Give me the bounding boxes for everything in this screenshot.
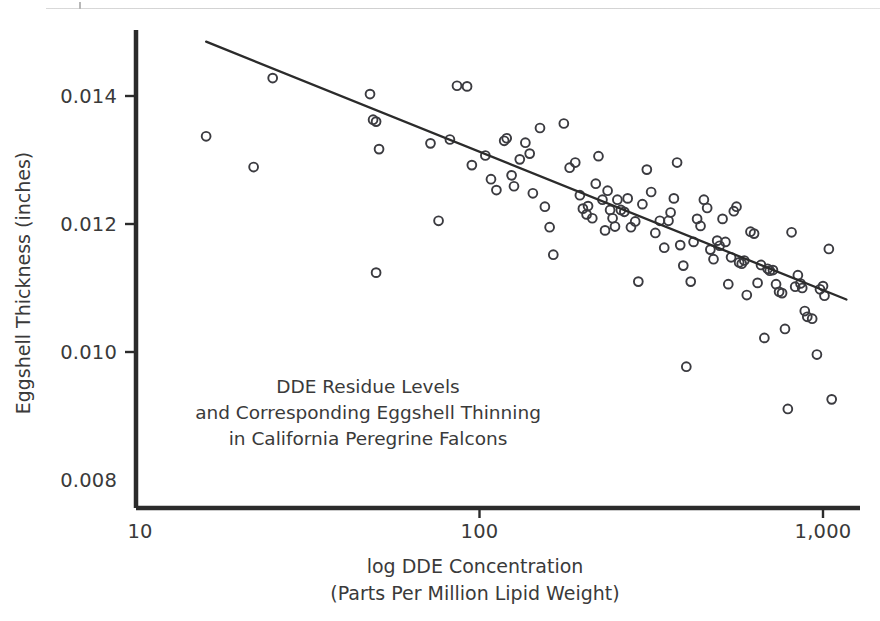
data-point	[686, 277, 695, 286]
scatter-plot: 0.0080.0100.0120.014 101001,000 Eggshell…	[0, 0, 880, 621]
data-point	[549, 250, 558, 259]
data-point	[540, 202, 549, 211]
data-point	[669, 194, 678, 203]
data-point	[703, 204, 712, 213]
data-point	[591, 179, 600, 188]
regression-trendline	[206, 42, 846, 300]
data-point	[673, 158, 682, 167]
data-point	[453, 81, 462, 90]
data-point	[268, 74, 277, 83]
data-point	[434, 216, 443, 225]
data-point	[613, 195, 622, 204]
data-point	[426, 139, 435, 148]
data-point	[682, 362, 691, 371]
x-axis-title-line-2: (Parts Per Million Lipid Weight)	[330, 582, 619, 604]
data-point	[375, 145, 384, 154]
data-point	[603, 186, 612, 195]
x-tick-label: 1,000	[795, 520, 852, 543]
data-point	[528, 189, 537, 198]
data-point	[249, 163, 258, 172]
x-axis-title-line-1: log DDE Concentration	[367, 555, 584, 577]
data-point	[545, 223, 554, 232]
data-point	[824, 245, 833, 254]
data-point	[463, 82, 472, 91]
data-point	[611, 222, 620, 231]
data-point	[559, 119, 568, 128]
y-tick-label: 0.012	[60, 213, 117, 236]
y-axis-title: Eggshell Thickness (inches)	[12, 152, 34, 415]
data-point	[623, 194, 632, 203]
y-tick-label: 0.014	[60, 85, 117, 108]
data-point	[666, 208, 675, 217]
data-point	[781, 325, 790, 334]
data-point	[492, 186, 501, 195]
annotation-line-2: and Corresponding Eggshell Thinning	[195, 402, 541, 423]
data-point	[571, 158, 580, 167]
data-point	[787, 228, 796, 237]
data-point	[521, 138, 530, 147]
y-axis-tick-labels: 0.0080.0100.0120.014	[60, 85, 117, 492]
data-point	[724, 280, 733, 289]
x-tick-label: 10	[127, 520, 152, 543]
data-point	[753, 278, 762, 287]
data-point	[718, 214, 727, 223]
data-point	[525, 149, 534, 158]
data-point	[601, 226, 610, 235]
annotation-line-3: in California Peregrine Falcons	[229, 428, 508, 449]
data-point	[372, 268, 381, 277]
data-point	[660, 243, 669, 252]
data-point	[467, 161, 476, 170]
data-point	[536, 124, 545, 133]
data-point-layer	[202, 74, 836, 414]
data-point	[651, 229, 660, 238]
y-tick-label: 0.010	[60, 341, 117, 364]
data-point	[202, 132, 211, 141]
data-point	[487, 175, 496, 184]
data-point	[515, 155, 524, 164]
data-point	[507, 171, 516, 180]
data-point	[760, 334, 769, 343]
data-point	[783, 405, 792, 414]
data-point	[634, 277, 643, 286]
y-tick-label: 0.008	[60, 469, 117, 492]
data-point	[647, 188, 656, 197]
data-point	[642, 165, 651, 174]
annotation-line-1: DDE Residue Levels	[276, 376, 459, 397]
data-point	[676, 241, 685, 250]
figure-container: 0.0080.0100.0120.014 101001,000 Eggshell…	[0, 0, 880, 621]
data-point	[679, 261, 688, 270]
x-tick-label: 100	[461, 520, 499, 543]
data-point	[827, 395, 836, 404]
x-axis-tick-labels: 101001,000	[127, 520, 851, 543]
data-point	[510, 182, 519, 191]
data-point	[594, 152, 603, 161]
data-point	[742, 291, 751, 300]
data-point	[813, 350, 822, 359]
data-point	[709, 255, 718, 264]
data-point	[366, 90, 375, 99]
data-point	[565, 163, 574, 172]
data-point	[638, 200, 647, 209]
